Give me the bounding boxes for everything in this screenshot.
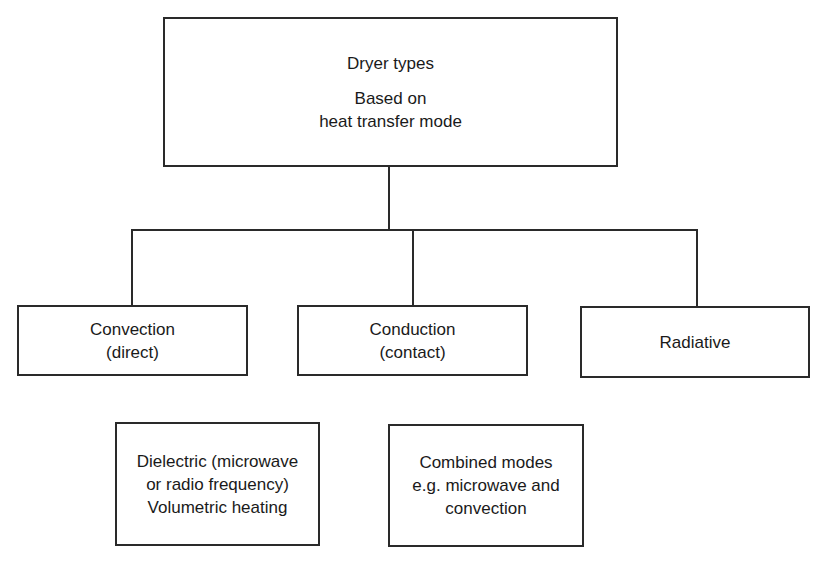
node-radiative: Radiative — [580, 306, 810, 378]
node-combined-modes: Combined modes e.g. microwave and convec… — [388, 424, 584, 547]
horizontal-bus-connector — [131, 229, 698, 231]
combined-line2: e.g. microwave and — [412, 474, 559, 497]
convection-label: Convection — [90, 318, 175, 341]
conduction-branch-connector — [412, 229, 414, 307]
root-subtitle-line2: heat transfer mode — [319, 110, 462, 133]
dielectric-line2: or radio frequency) — [146, 473, 289, 496]
node-conduction: Conduction (contact) — [297, 305, 528, 376]
node-convection: Convection (direct) — [17, 305, 248, 376]
node-dielectric: Dielectric (microwave or radio frequency… — [115, 422, 320, 546]
radiative-label: Radiative — [660, 331, 731, 354]
root-stem-connector — [388, 166, 390, 231]
combined-line3: convection — [445, 497, 526, 520]
root-title: Dryer types — [347, 52, 434, 75]
convection-sublabel: (direct) — [106, 341, 159, 364]
conduction-sublabel: (contact) — [379, 341, 445, 364]
convection-branch-connector — [131, 229, 133, 307]
root-subtitle-line1: Based on — [355, 87, 427, 110]
root-node-dryer-types: Dryer types Based on heat transfer mode — [163, 17, 618, 167]
conduction-label: Conduction — [369, 318, 455, 341]
dielectric-line1: Dielectric (microwave — [137, 450, 299, 473]
combined-line1: Combined modes — [419, 451, 552, 474]
dielectric-line3: Volumetric heating — [148, 496, 288, 519]
radiative-branch-connector — [696, 230, 698, 308]
